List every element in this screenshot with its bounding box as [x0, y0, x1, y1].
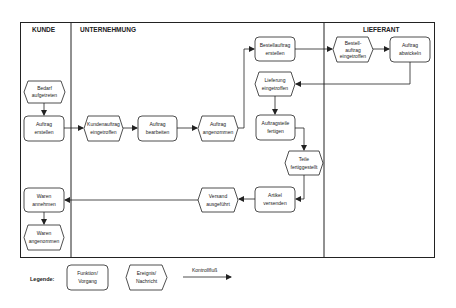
- event-versand-ausgefuehrt: Versand ausgeführt: [198, 188, 238, 212]
- legend-flow-label: Kontrollfluß: [192, 267, 217, 273]
- node-label: erstellen: [266, 50, 285, 56]
- function-auftrag-erstellen: Auftrag erstellen: [24, 116, 64, 141]
- node-label: bearbeiten: [146, 129, 170, 135]
- node-label: eingetroffen: [340, 53, 367, 59]
- legend: Legende: Funktion/ Vorgang Ereignis/ Nac…: [30, 265, 231, 290]
- node-label: Auftragsteile: [262, 120, 290, 126]
- function-auftrag-abwickeln: Auftrag abwickeln: [390, 37, 430, 62]
- node-label: fertigen: [267, 128, 284, 134]
- function-artikel-versenden: Artikel versenden: [255, 187, 295, 212]
- legend-function-label: Vorgang: [78, 278, 97, 284]
- node-label: ausgeführt: [206, 201, 230, 207]
- process-diagram: KUNDE UNTERNEHMUNG LIEFERANT: [0, 0, 456, 308]
- node-label: aufgetreten: [32, 92, 58, 98]
- function-auftrag-bearbeiten: Auftrag bearbeiten: [138, 116, 177, 141]
- node-label: annehmen: [32, 201, 56, 207]
- node-label: Auftrag: [149, 121, 165, 127]
- event-waren-angenommen: Waren angenommen: [24, 225, 64, 250]
- lane-title-kunde: KUNDE: [32, 26, 56, 33]
- node-label: Auftrag: [210, 121, 226, 127]
- legend-function-label: Funktion/: [77, 270, 98, 276]
- event-bestellauftrag-eingetroffen: Bestell- auftrag eingetroffen: [333, 37, 373, 62]
- node-label: Lieferung: [265, 77, 286, 83]
- event-lieferung-eingetroffen: Lieferung eingetroffen: [255, 72, 295, 96]
- node-label: Teile: [299, 156, 310, 162]
- node-label: Auftrag: [36, 121, 52, 127]
- function-waren-annehmen: Waren annehmen: [24, 188, 64, 212]
- node-label: Artikel: [268, 192, 282, 198]
- event-bedarf-aufgetreten: Bedarf aufgetreten: [24, 81, 65, 103]
- legend-event-label: Nachricht: [136, 278, 158, 284]
- node-label: versenden: [263, 200, 287, 206]
- event-auftrag-angenommen: Auftrag angenommen: [198, 116, 238, 141]
- legend-control-flow: Kontrollfluß: [183, 267, 231, 277]
- node-label: erstellen: [35, 129, 54, 135]
- lane-title-unternehmung: UNTERNEHMUNG: [80, 26, 136, 33]
- legend-label: Legende:: [30, 276, 55, 282]
- node-label: fertiggestellt: [291, 164, 319, 170]
- function-auftragsteile-fertigen: Auftragsteile fertigen: [256, 115, 295, 140]
- node-label: Bestell-: [345, 40, 362, 46]
- node-label: Waren: [37, 230, 52, 236]
- legend-function: Funktion/ Vorgang: [67, 265, 108, 290]
- event-kundenauftrag-eingetroffen: Kundenauftrag eingetroffen: [84, 116, 123, 141]
- lane-title-lieferant: LIEFERANT: [363, 26, 400, 33]
- node-label: Kundenauftrag: [87, 121, 120, 127]
- legend-event-label: Ereignis/: [137, 270, 157, 276]
- node-label: Bestellauftrag: [260, 42, 291, 48]
- node-label: Bedarf: [37, 85, 52, 91]
- legend-event: Ereignis/ Nachricht: [126, 265, 167, 290]
- function-bestellauftrag-erstellen: Bestellauftrag erstellen: [255, 37, 295, 61]
- node-label: Waren: [37, 193, 52, 199]
- node-label: Auftrag: [402, 42, 418, 48]
- node-label: angenommen: [29, 238, 60, 244]
- node-label: Versand: [209, 193, 228, 199]
- node-label: angenommen: [203, 129, 234, 135]
- event-teile-fertiggestellt: Teile fertiggestellt: [285, 151, 323, 175]
- node-label: eingetroffen: [90, 129, 117, 135]
- node-label: eingetroffen: [262, 85, 289, 91]
- node-label: auftrag: [345, 47, 361, 53]
- node-label: abwickeln: [399, 50, 421, 56]
